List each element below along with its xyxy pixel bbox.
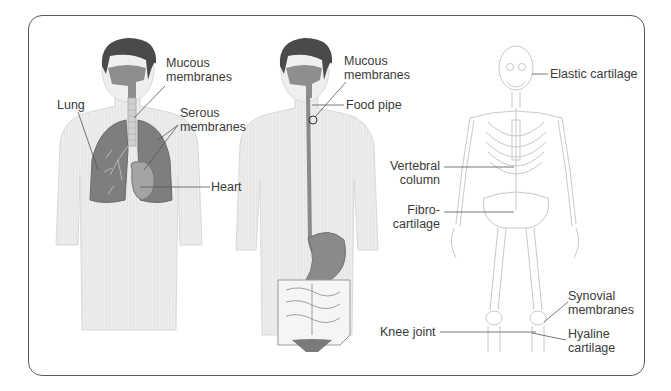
label-serous-membranes: Serous membranes — [180, 106, 246, 134]
label-line: Fibro- — [388, 203, 440, 217]
label-line: membranes — [344, 68, 410, 82]
label-synovial-membranes: Synovial membranes — [568, 289, 634, 317]
label-line: Mucous — [344, 54, 410, 68]
label-line: Vertebral — [388, 159, 440, 173]
label-line: membranes — [166, 70, 232, 84]
label-line: cartilage — [568, 341, 615, 355]
label-hyaline-cartilage: Hyaline cartilage — [568, 327, 615, 355]
intestines — [278, 280, 350, 345]
label-vertebral-column: Vertebral column — [388, 159, 440, 187]
label-line: membranes — [568, 303, 634, 317]
label-fibro-cartilage: Fibro- cartilage — [388, 203, 440, 231]
label-line: membranes — [180, 120, 246, 134]
label-line: Synovial — [568, 289, 634, 303]
label-dig-mucous-membranes: Mucous membranes — [344, 54, 410, 82]
label-knee-joint: Knee joint — [380, 325, 436, 339]
label-line: Mucous — [166, 56, 232, 70]
label-line: Serous — [180, 106, 246, 120]
label-lung: Lung — [57, 98, 85, 112]
label-resp-mucous-membranes: Mucous membranes — [166, 56, 232, 84]
label-line: Hyaline — [568, 327, 615, 341]
label-food-pipe: Food pipe — [346, 98, 402, 112]
label-line: column — [388, 173, 440, 187]
digestive-figure — [236, 38, 378, 352]
skeleton-figure — [451, 46, 578, 352]
label-line: cartilage — [388, 217, 440, 231]
label-heart: Heart — [211, 180, 242, 194]
label-elastic-cartilage: Elastic cartilage — [550, 67, 638, 81]
